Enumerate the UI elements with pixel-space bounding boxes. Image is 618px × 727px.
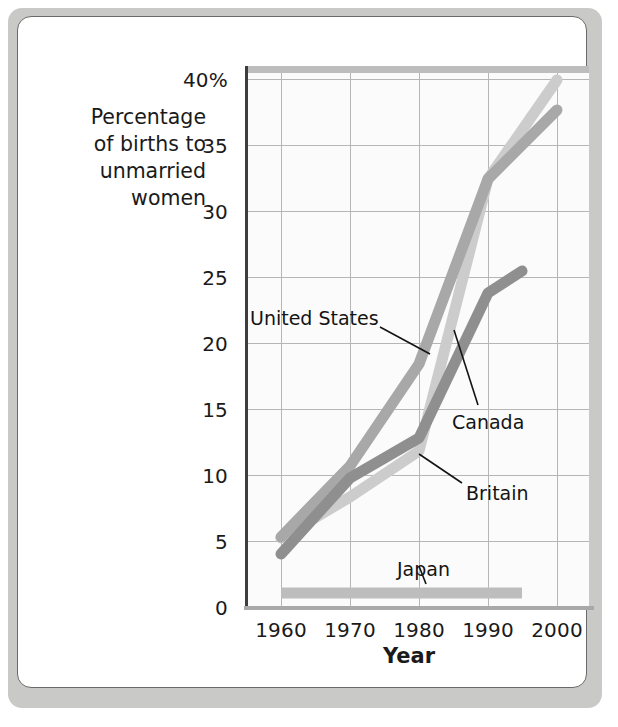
y-tick-label-40: 40% xyxy=(108,68,228,92)
y-tick-label-15: 15 xyxy=(108,398,228,422)
x-axis-title: Year xyxy=(230,644,588,668)
series-label-united-states: United States xyxy=(250,307,379,329)
y-tick-label-25: 25 xyxy=(108,266,228,290)
y-axis-title-line-3: unmarried xyxy=(30,158,206,185)
y-tick-label-5: 5 xyxy=(108,530,228,554)
series-label-canada: Canada xyxy=(452,411,524,433)
y-tick-label-0: 0 xyxy=(108,596,228,620)
y-axis-title-line-1: Percentage xyxy=(30,104,206,131)
series-label-britain: Britain xyxy=(466,482,529,504)
figure-root: Percentage of births to unmarried women … xyxy=(0,0,618,727)
series-layer xyxy=(230,62,588,614)
y-tick-label-20: 20 xyxy=(108,332,228,356)
y-tick-label-35: 35 xyxy=(108,134,228,158)
y-tick-label-30: 30 xyxy=(108,200,228,224)
x-tick-label-2000: 2000 xyxy=(512,618,602,642)
leader-line-britain xyxy=(419,454,462,483)
series-label-japan: Japan xyxy=(397,558,450,580)
y-axis-title: Percentage of births to unmarried women xyxy=(30,104,206,212)
plot-wrapper: 40% 35 30 25 20 15 10 5 0 1960 1970 1980… xyxy=(230,62,588,614)
y-tick-label-10: 10 xyxy=(108,464,228,488)
